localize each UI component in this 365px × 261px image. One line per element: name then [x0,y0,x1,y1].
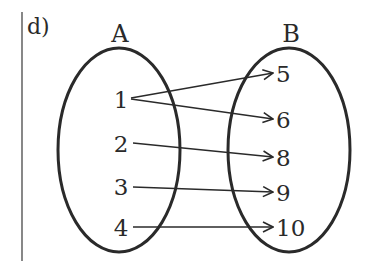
mapping-diagram: d) A B 1 2 3 4 5 6 8 9 10 [0,0,365,261]
set-a-element: 1 [114,87,129,113]
set-a-element: 2 [114,131,129,157]
arrow-3-to-9 [133,187,273,192]
part-label: d) [27,14,50,39]
diagram-svg: d) A B 1 2 3 4 5 6 8 9 10 [0,0,365,261]
set-a-label: A [110,20,129,48]
arrow-2-to-8 [133,143,273,157]
set-b-element: 9 [276,180,291,206]
set-b-element: 10 [276,215,305,241]
set-b-label: B [282,20,300,48]
set-b-element: 6 [276,107,291,133]
arrow-1-to-6 [131,99,273,119]
arrow-1-to-5 [131,73,273,98]
set-a-element: 3 [114,174,129,200]
set-b-element: 8 [276,145,291,171]
set-a-element: 4 [114,215,129,241]
set-b-element: 5 [276,61,291,87]
